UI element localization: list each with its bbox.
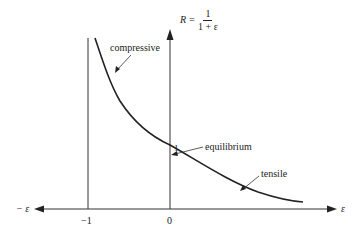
x-neg-label: − ε: [16, 204, 29, 214]
tensile-label: tensile: [261, 169, 287, 179]
equilibrium-label: equilibrium: [205, 142, 252, 152]
formula-denominator: 1 + ε: [198, 21, 218, 32]
tick-zero: 0: [167, 216, 172, 226]
compressive-leader: [117, 55, 131, 70]
compressive-label: compressive: [110, 43, 160, 53]
formula-fraction: 1 1 + ε: [198, 9, 218, 32]
formula-lhs: R =: [180, 15, 195, 25]
r-axis-up-arrow-icon: [167, 29, 174, 40]
point-one-label: 1: [174, 144, 179, 153]
formula-numerator: 1: [203, 9, 212, 21]
tick-minus-one: −1: [81, 216, 92, 226]
x-pos-label: ε: [341, 204, 345, 214]
x-axis-left-arrow-icon: [34, 206, 44, 213]
diagram-canvas: [0, 0, 361, 232]
x-axis-right-arrow-icon: [327, 206, 337, 213]
tensile-leader: [243, 176, 259, 189]
